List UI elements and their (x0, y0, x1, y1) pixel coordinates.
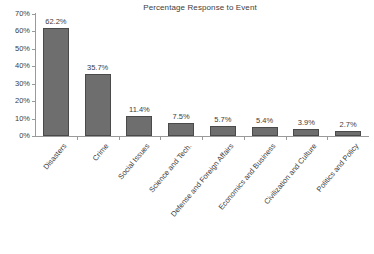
x-tick-mark (244, 137, 245, 140)
x-category-label: Civilization and Culture (235, 142, 319, 240)
chart-title: Percentage Response to Event (35, 3, 365, 12)
bar-value-label: 5.7% (203, 115, 243, 124)
y-tick: 10% (0, 119, 35, 129)
y-tick-mark (32, 14, 35, 15)
y-tick-mark (32, 101, 35, 102)
y-tick-label: 10% (15, 114, 30, 123)
y-tick-label: 50% (15, 44, 30, 53)
y-tick: 50% (0, 49, 35, 59)
y-tick: 40% (0, 66, 35, 76)
y-tick-mark (32, 31, 35, 32)
bar-value-label: 62.2% (36, 17, 76, 26)
y-axis-line (35, 13, 36, 137)
x-category-label: Economics and Business (193, 142, 277, 240)
y-tick-label: 60% (15, 26, 30, 35)
bar-value-label: 7.5% (161, 112, 201, 121)
x-category-label: Crime (26, 142, 110, 240)
bar-value-label: 3.9% (286, 118, 326, 127)
x-tick-mark (160, 137, 161, 140)
x-category-label: Politics and Policy (277, 142, 361, 240)
bar (252, 127, 278, 136)
x-category-label: Social Issues (68, 142, 152, 240)
bar (126, 116, 152, 136)
x-tick-mark (119, 137, 120, 140)
bar-value-label: 35.7% (78, 63, 118, 72)
x-tick-mark (286, 137, 287, 140)
bar (335, 131, 361, 136)
bar (168, 123, 194, 136)
y-tick-label: 70% (15, 9, 30, 18)
bar (293, 129, 319, 136)
bar-chart: Percentage Response to Event 70%60%50%40… (0, 0, 374, 254)
bar-value-label: 11.4% (119, 105, 159, 114)
x-category-label: Defense and Foreign Affairs (151, 142, 235, 240)
y-tick-label: 40% (15, 61, 30, 70)
bar (43, 28, 69, 136)
y-tick-mark (32, 66, 35, 67)
y-tick: 70% (0, 14, 35, 24)
bar-value-label: 2.7% (328, 120, 368, 129)
y-tick: 20% (0, 101, 35, 111)
y-tick-label: 30% (15, 79, 30, 88)
bar (210, 126, 236, 136)
x-tick-mark (327, 137, 328, 140)
bar-value-label: 5.4% (245, 116, 285, 125)
y-tick-mark (32, 84, 35, 85)
y-tick-mark (32, 136, 35, 137)
y-tick: 0% (0, 136, 35, 146)
y-tick-label: 20% (15, 96, 30, 105)
bar (85, 74, 111, 136)
y-tick: 60% (0, 31, 35, 41)
y-tick-label: 0% (19, 131, 30, 140)
x-tick-mark (77, 137, 78, 140)
x-category-label: Science and Tech. (110, 142, 194, 240)
y-tick: 30% (0, 84, 35, 94)
x-tick-mark (202, 137, 203, 140)
y-tick-mark (32, 119, 35, 120)
y-tick-mark (32, 49, 35, 50)
